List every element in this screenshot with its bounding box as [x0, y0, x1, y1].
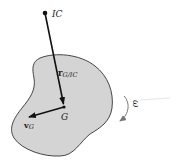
instantaneous-center-point — [43, 11, 48, 16]
omega-label: ω — [131, 100, 141, 108]
g-label: G — [61, 112, 68, 122]
faint-reference-line — [140, 98, 170, 100]
diagram-canvas: IC rG/IC G vG ω — [0, 0, 177, 163]
ic-label: IC — [51, 9, 63, 19]
center-of-mass-point — [62, 105, 65, 108]
angular-velocity-arrow-icon — [120, 96, 128, 121]
